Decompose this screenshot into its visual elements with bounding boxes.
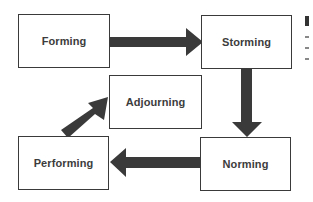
node-label: Performing xyxy=(34,157,94,169)
arrow-forming-to-storming xyxy=(110,28,203,56)
node-forming: Forming xyxy=(18,14,110,68)
node-label: Norming xyxy=(223,158,269,170)
node-label: Forming xyxy=(42,35,87,47)
node-adjourning: Adjourning xyxy=(109,75,202,129)
node-norming: Norming xyxy=(200,137,291,191)
node-performing: Performing xyxy=(18,136,109,190)
node-label: Adjourning xyxy=(126,96,186,108)
arrow-storming-to-norming xyxy=(232,69,262,137)
node-storming: Storming xyxy=(201,15,292,69)
node-label: Storming xyxy=(222,36,271,48)
cropped-text-fragment xyxy=(305,16,313,69)
arrow-norming-to-performing xyxy=(110,148,200,177)
arrow-performing-to-adjourning xyxy=(61,97,108,138)
